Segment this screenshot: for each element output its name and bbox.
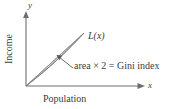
- x-axis-title: Population: [43, 94, 86, 104]
- x-axis-arrowhead: [138, 83, 146, 89]
- x-axis-variable-label: x: [148, 81, 152, 90]
- y-axis-title: Income: [4, 26, 14, 72]
- figure-canvas: [0, 0, 182, 109]
- annotation-leader-line: [59, 57, 73, 68]
- lorenz-curve-figure: y x Income Population L(x) area × 2 = Gi…: [0, 0, 182, 109]
- y-axis-variable-label: y: [28, 1, 32, 10]
- gini-index-annotation: area × 2 = Gini index: [74, 61, 159, 71]
- lorenz-curve-label: L(x): [88, 31, 105, 41]
- y-axis-arrowhead: [23, 11, 29, 18]
